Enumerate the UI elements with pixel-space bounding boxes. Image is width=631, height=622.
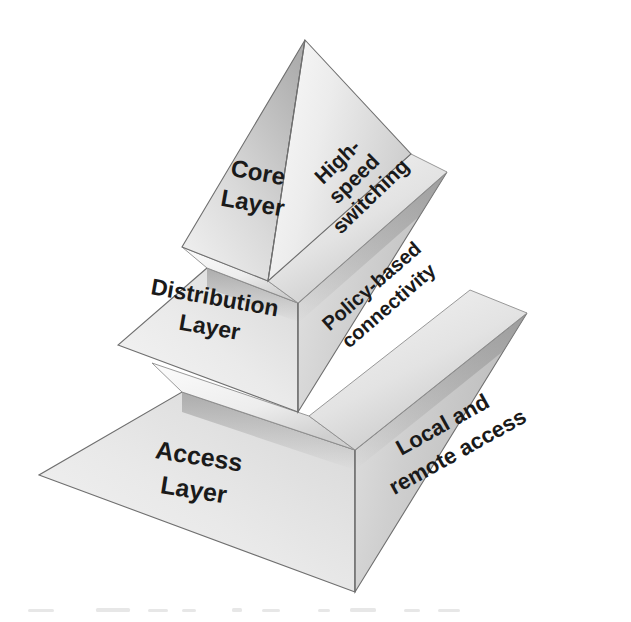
pyramid-diagram: Access Layer Local and remote access Dis…: [0, 0, 631, 622]
diagram-canvas: Access Layer Local and remote access Dis…: [0, 0, 631, 622]
